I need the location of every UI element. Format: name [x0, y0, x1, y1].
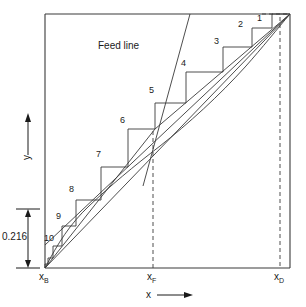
x-tick-label-xF: xF [147, 272, 156, 284]
stage-number-9: 9 [56, 212, 61, 221]
x-tick-label-xD: xD [274, 272, 284, 284]
x-axis-name: x [146, 290, 151, 300]
stage-number-1: 1 [257, 14, 262, 23]
x-tick-xF-sub: F [152, 277, 156, 284]
minimum-reflux-line [45, 14, 290, 245]
stage-number-5: 5 [149, 86, 154, 95]
stage-number-6: 6 [120, 116, 125, 125]
x-tick-label-xB: xB [39, 272, 49, 284]
diagonal-45-line [45, 14, 290, 268]
x-axis-arrow [157, 292, 193, 298]
y-axis-name: y [22, 155, 32, 160]
mccabe-thiele-figure: 1 2 3 4 5 6 7 8 9 10 Feed line 0.216 xB … [0, 0, 306, 307]
stage-number-8: 8 [69, 185, 74, 194]
stage-number-7: 7 [96, 150, 101, 159]
stage-number-10: 10 [44, 234, 54, 243]
x-tick-xB-sub: B [44, 277, 49, 284]
y-axis-arrow [25, 113, 31, 155]
stage-number-2: 2 [238, 20, 243, 29]
feed-line [143, 14, 190, 186]
plot-canvas [0, 0, 306, 307]
feed-line-label: Feed line [98, 41, 139, 51]
dimension-label-0216: 0.216 [2, 232, 27, 242]
x-tick-xD-sub: D [279, 277, 284, 284]
rectifying-operating-line [155, 14, 290, 129]
stage-number-4: 4 [181, 59, 186, 68]
stage-number-3: 3 [214, 37, 219, 46]
